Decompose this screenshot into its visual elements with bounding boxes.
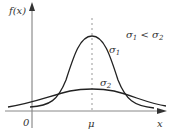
sigma-relation-annotation: σ1 < σ2 [126,29,164,42]
sigma2-label: σ2 [100,77,112,90]
y-axis-label: f(x) [8,5,26,16]
mu-label: μ [88,118,95,129]
x-axis-arrow-icon [157,108,167,114]
sigma1-label: σ1 [109,44,120,57]
normal-distribution-diagram: f(x) x 0 μ σ1 σ2 σ1 < σ2 [0,0,173,137]
y-axis-arrow-icon [29,2,35,11]
x-axis-label: x [157,118,163,129]
origin-label: 0 [23,117,30,128]
